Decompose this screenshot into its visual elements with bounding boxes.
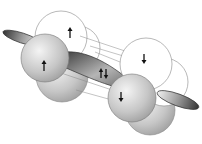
left-front-sphere	[21, 34, 69, 82]
diagram-canvas: ↑↓	[0, 0, 202, 144]
right-front-sphere	[108, 74, 156, 122]
orbital-diagram	[0, 0, 202, 144]
